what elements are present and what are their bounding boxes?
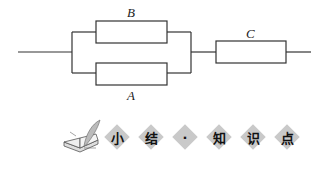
banner-char: 知 [206,124,232,150]
summary-banner: 小 结 · 知 识 点 [62,118,282,158]
banner-char: · [172,124,198,150]
banner-char: 点 [274,124,300,150]
banner-title: 小 结 · 知 识 点 [104,124,300,150]
book-quill-icon [62,118,102,154]
circuit-diagram [0,0,326,110]
banner-char: 结 [138,124,164,150]
label-c: C [246,27,255,40]
resistor-c [216,41,286,63]
label-a: A [127,89,135,102]
banner-char: 小 [104,124,130,150]
resistor-b [96,21,167,43]
label-b: B [127,6,135,19]
resistor-a [96,63,167,85]
banner-char: 识 [240,124,266,150]
